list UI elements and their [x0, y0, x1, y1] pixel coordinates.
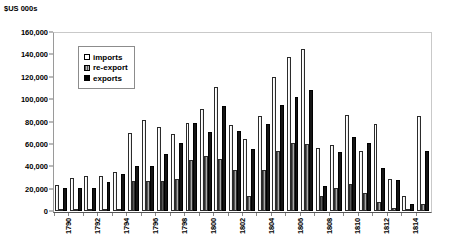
bar-group — [330, 32, 342, 211]
bar-group — [316, 32, 328, 211]
bar-group — [402, 32, 414, 211]
bar-group — [374, 32, 386, 211]
x-axis-tick-label: 1808 — [325, 218, 334, 234]
legend-item-exports: exports — [84, 74, 128, 83]
x-axis-tick-label: 1812 — [382, 218, 391, 234]
bar-exports — [135, 166, 139, 211]
x-axis-tick-mark — [54, 213, 55, 216]
x-axis-tick-label: 1792 — [93, 218, 102, 234]
bar-group — [287, 32, 299, 211]
x-axis-tick-label: 1814 — [411, 218, 420, 234]
x-axis-tick-mark — [401, 213, 402, 216]
bar-imports — [84, 176, 88, 211]
x-axis-tick-mark — [213, 213, 214, 216]
bar-group — [229, 32, 241, 211]
bar-group — [214, 32, 226, 211]
x-axis-tick-mark — [126, 213, 127, 216]
bar-exports — [352, 137, 356, 211]
bar-exports — [63, 188, 67, 211]
y-axis-title: $US 000s — [4, 4, 37, 13]
y-axis-tick-label: 80,000 — [25, 117, 48, 126]
x-axis-tick-mark — [329, 213, 330, 216]
bar-exports — [323, 186, 327, 211]
bar-group — [345, 32, 357, 211]
x-axis-tick-mark — [387, 213, 388, 216]
bar-group — [258, 32, 270, 211]
bar-exports — [280, 105, 284, 211]
x-axis-tick-mark — [68, 213, 69, 216]
bar-exports — [381, 168, 385, 211]
x-axis-tick-mark — [416, 213, 417, 216]
x-axis-tick-label: 1804 — [267, 218, 276, 234]
x-axis-tick-label: 1790 — [64, 218, 73, 234]
y-axis-tick-label: 0 — [44, 207, 48, 216]
bar-group — [272, 32, 284, 211]
legend: imports re-export exports — [78, 46, 135, 89]
x-axis-tick-mark — [372, 213, 373, 216]
legend-label-exports: exports — [93, 74, 122, 83]
bar-exports — [208, 132, 212, 211]
bar-imports — [417, 116, 421, 211]
x-axis-tick-label: 1794 — [122, 218, 131, 234]
bar-exports — [266, 124, 270, 211]
bar-exports — [367, 143, 371, 211]
bar-exports — [179, 143, 183, 211]
y-axis: 020,00040,00060,00080,000100,000120,0001… — [0, 32, 53, 212]
x-axis-tick-mark — [184, 213, 185, 216]
y-axis-tick-label: 20,000 — [25, 184, 48, 193]
x-axis-tick-mark — [170, 213, 171, 216]
bar-imports — [388, 179, 392, 211]
bar-imports — [374, 124, 378, 211]
bar-exports — [410, 204, 414, 211]
x-axis: 1790179217941796179818001802180418061808… — [54, 213, 430, 247]
bar-group — [388, 32, 400, 211]
bar-exports — [92, 188, 96, 211]
x-axis-tick-label: 1800 — [209, 218, 218, 234]
y-axis-tick-label: 60,000 — [25, 139, 48, 148]
bar-group — [171, 32, 183, 211]
bar-group — [359, 32, 371, 211]
legend-item-re-export: re-export — [84, 63, 128, 72]
bar-exports — [78, 188, 82, 211]
bar-imports — [113, 172, 117, 211]
bar-group — [55, 32, 67, 211]
x-axis-tick-mark — [141, 213, 142, 216]
bar-exports — [107, 182, 111, 211]
bar-imports — [70, 178, 74, 211]
legend-swatch-re-export-icon — [84, 65, 90, 71]
x-axis-tick-label: 1798 — [180, 218, 189, 234]
bar-exports — [338, 152, 342, 211]
x-axis-tick-mark — [271, 213, 272, 216]
bar-group — [142, 32, 154, 211]
x-axis-tick-mark — [155, 213, 156, 216]
x-axis-tick-mark — [285, 213, 286, 216]
bar-exports — [425, 151, 429, 211]
bar-imports — [55, 185, 59, 211]
bar-exports — [121, 174, 125, 211]
x-axis-tick-mark — [300, 213, 301, 216]
legend-swatch-imports-icon — [84, 54, 90, 60]
x-axis-tick-label: 1806 — [296, 218, 305, 234]
x-axis-tick-mark — [314, 213, 315, 216]
bar-exports — [164, 154, 168, 211]
x-axis-tick-mark — [358, 213, 359, 216]
y-axis-tick-label: 40,000 — [25, 162, 48, 171]
x-axis-tick-mark — [256, 213, 257, 216]
x-axis-tick-mark — [199, 213, 200, 216]
legend-swatch-exports-icon — [84, 75, 90, 81]
bar-group — [186, 32, 198, 211]
legend-label-re-export: re-export — [93, 63, 128, 72]
x-axis-tick-mark — [242, 213, 243, 216]
y-axis-tick-label: 100,000 — [21, 95, 48, 104]
legend-item-imports: imports — [84, 53, 128, 62]
bar-group — [301, 32, 313, 211]
bar-group — [417, 32, 429, 211]
bar-exports — [150, 166, 154, 211]
x-axis-tick-label: 1796 — [151, 218, 160, 234]
legend-label-imports: imports — [93, 53, 122, 62]
bar-group — [243, 32, 255, 211]
bar-exports — [396, 180, 400, 211]
bar-exports — [251, 149, 255, 211]
x-axis-tick-label: 1810 — [353, 218, 362, 234]
x-axis-tick-mark — [343, 213, 344, 216]
